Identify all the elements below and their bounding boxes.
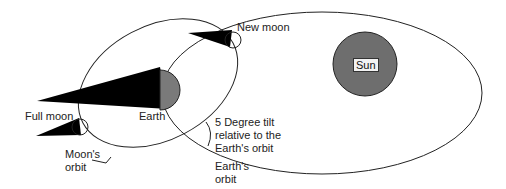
earths-orbit-label-line2: orbit [215,173,249,186]
tilt-angle-arc [206,122,211,146]
new-moon-label: New moon [237,21,290,34]
tilt-line3: Earth's orbit [215,142,281,155]
moons-orbit-label: Moon's orbit [65,148,100,174]
earth-circle [160,70,180,110]
tilt-annotation: 5 Degree tilt relative to the Earth's or… [215,116,281,155]
tilt-line1: 5 Degree tilt [215,116,281,129]
eclipse-diagram: Sun New moon Earth Full moon Moon's orbi… [0,0,506,189]
earths-orbit-label-line1: Earth's [215,160,249,173]
earth-label: Earth [139,110,165,123]
earths-orbit-label: Earth's orbit [215,160,249,186]
moons-orbit-label-line2: orbit [65,161,100,174]
tilt-line2: relative to the [215,129,281,142]
full-moon-label: Full moon [25,110,73,123]
moons-orbit-label-line1: Moon's [65,148,100,161]
sun-label: Sun [353,58,379,72]
earth-shadow-wedge [37,67,168,109]
